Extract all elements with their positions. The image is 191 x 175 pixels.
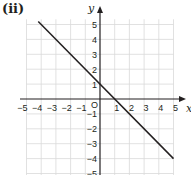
coordinate-plot: −5−4−3−2−11234554321−1−2−3−4−5 x y O (0, 0, 191, 175)
x-tick-label: −2 (61, 103, 71, 113)
x-tick-label: 1 (114, 103, 119, 113)
y-tick-label: −4 (87, 154, 97, 164)
x-tick-label: 2 (129, 103, 134, 113)
x-axis-label: x (186, 102, 191, 115)
y-tick-label: 2 (92, 65, 97, 75)
x-tick-label: −5 (17, 103, 27, 113)
y-tick-label: −1 (87, 109, 97, 119)
x-tick-label: 4 (158, 103, 163, 113)
x-tick-label: 5 (173, 103, 178, 113)
graph-figure: (ii) −5−4−3−2−11234554321−1−2−3−4−5 x y … (0, 0, 191, 175)
x-tick-label: −4 (32, 103, 42, 113)
x-tick-label: 3 (144, 103, 149, 113)
x-tick-label: −1 (76, 103, 86, 113)
origin-label: O (91, 100, 98, 110)
y-tick-label: 5 (92, 20, 97, 30)
x-axis-arrow-icon (179, 96, 186, 102)
axes (20, 6, 186, 175)
y-tick-label: 3 (92, 50, 97, 60)
x-tick-label: −3 (47, 103, 57, 113)
y-tick-label: −5 (87, 169, 97, 175)
y-axis-label: y (87, 2, 95, 15)
y-tick-label: 4 (92, 35, 97, 45)
y-tick-label: −3 (87, 139, 97, 149)
y-tick-label: −2 (87, 124, 97, 134)
y-axis-arrow-icon (97, 6, 103, 13)
plotted-line (38, 22, 173, 159)
series-line (38, 22, 173, 159)
